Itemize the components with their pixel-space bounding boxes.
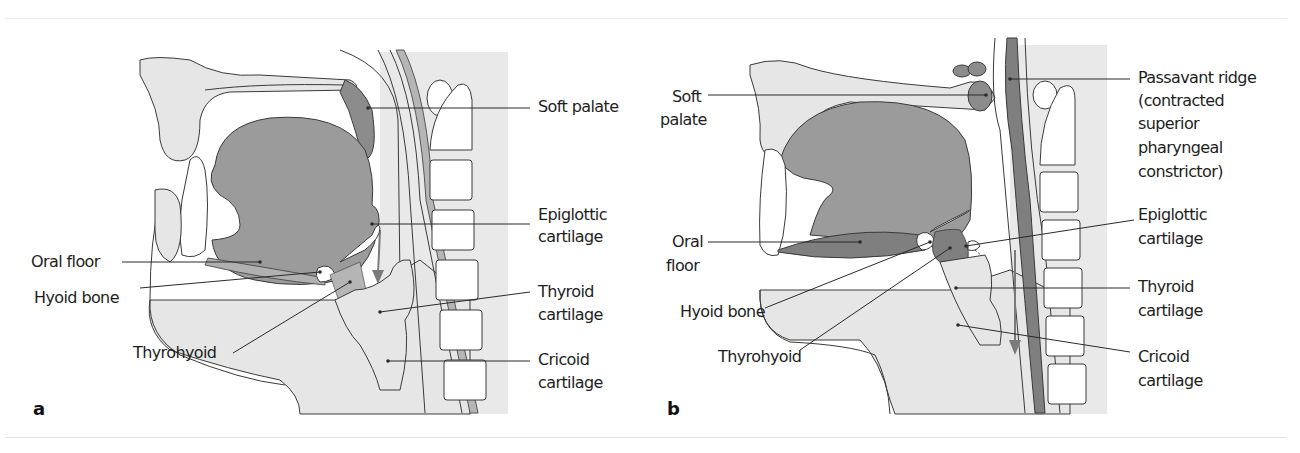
- label-oral-floor: Oral floor: [31, 252, 100, 272]
- panel-label-b: b: [667, 398, 680, 419]
- label-passavant-ridge-line1: Passavant ridge: [1138, 68, 1256, 88]
- label-thyroid-cartilage-line2: cartilage: [538, 305, 603, 325]
- label-oral-floor-line1: Oral: [672, 232, 703, 252]
- label-hyoid-bone: Hyoid bone: [34, 288, 119, 308]
- label-soft-palate: Soft palate: [538, 97, 618, 117]
- label-passavant-ridge-line2: (contracted: [1138, 91, 1224, 111]
- label-thyroid-cartilage-line1: Thyroid: [1138, 277, 1194, 297]
- label-thyrohyoid: Thyrohyoid: [718, 347, 801, 367]
- label-passavant-ridge-line3: superior: [1138, 114, 1199, 134]
- label-passavant-ridge-line4: pharyngeal: [1138, 138, 1223, 158]
- label-oral-floor-line2: floor: [666, 256, 699, 276]
- panel-label-a: a: [33, 398, 45, 419]
- panel-a: Soft palate Epiglottic cartilage Oral fl…: [0, 0, 650, 453]
- label-thyrohyoid: Thyrohyoid: [133, 343, 216, 363]
- label-soft-palate-line1: Soft: [672, 87, 701, 107]
- label-passavant-ridge-line5: constrictor): [1138, 162, 1223, 182]
- label-epiglottic-cartilage-line2: cartilage: [538, 227, 603, 247]
- label-cricoid-cartilage-line1: Cricoid: [538, 350, 589, 370]
- label-epiglottic-cartilage-line1: Epiglottic: [538, 205, 607, 225]
- label-cricoid-cartilage-line1: Cricoid: [1138, 347, 1189, 367]
- label-thyroid-cartilage-line1: Thyroid: [538, 282, 594, 302]
- label-hyoid-bone: Hyoid bone: [680, 302, 765, 322]
- label-cricoid-cartilage-line2: cartilage: [1138, 371, 1203, 391]
- panel-b: Soft palate Passavant ridge (contracted …: [650, 0, 1300, 453]
- label-thyroid-cartilage-line2: cartilage: [1138, 301, 1203, 321]
- label-cricoid-cartilage-line2: cartilage: [538, 373, 603, 393]
- label-epiglottic-cartilage-line2: cartilage: [1138, 229, 1203, 249]
- label-epiglottic-cartilage-line1: Epiglottic: [1138, 205, 1207, 225]
- label-soft-palate-line2: palate: [660, 110, 707, 130]
